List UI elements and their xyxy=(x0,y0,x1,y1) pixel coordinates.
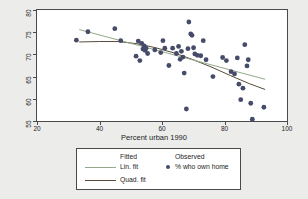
x-tick-mark xyxy=(287,122,288,125)
x-tick-label: 60 xyxy=(152,125,172,132)
scatter-plot-canvas xyxy=(37,10,287,121)
x-axis-title: Percent urban 1990 xyxy=(0,133,308,142)
y-tick-mark xyxy=(33,77,36,78)
x-tick-mark xyxy=(100,122,101,125)
y-tick-label: 60 xyxy=(25,98,32,114)
legend-label-observed: % who own home xyxy=(175,163,229,170)
x-tick-label: 40 xyxy=(90,125,110,132)
legend-label-quad-fit: Quad. fit xyxy=(120,176,146,183)
y-tick-mark xyxy=(33,32,36,33)
legend-swatch-observed xyxy=(166,165,170,169)
legend-header-fitted: Fitted xyxy=(120,153,137,160)
plot-panel xyxy=(36,9,288,122)
y-tick-label: 70 xyxy=(25,54,32,70)
legend-label-lin-fit: Lin. fit xyxy=(120,163,138,170)
x-tick-mark xyxy=(162,122,163,125)
y-tick-label: 80 xyxy=(25,10,32,26)
y-tick-label: 65 xyxy=(25,76,32,92)
y-tick-mark xyxy=(33,54,36,55)
legend-swatch-lin-fit xyxy=(85,167,116,168)
x-tick-label: 100 xyxy=(277,125,297,132)
legend-header-observed: Observed xyxy=(175,153,204,160)
observed-points xyxy=(74,20,266,121)
x-tick-label: 80 xyxy=(215,125,235,132)
y-tick-mark xyxy=(33,99,36,100)
lin-fit-line xyxy=(79,30,265,80)
chart-figure: 556065707580 20406080100 Percent urban 1… xyxy=(0,0,308,199)
y-tick-label: 75 xyxy=(25,32,32,48)
x-tick-mark xyxy=(37,122,38,125)
y-tick-mark xyxy=(33,121,36,122)
x-tick-label: 20 xyxy=(27,125,47,132)
x-tick-mark xyxy=(225,122,226,125)
y-tick-mark xyxy=(33,10,36,11)
legend-swatch-quad-fit xyxy=(85,180,116,181)
chart-legend: Fitted Observed Lin. fit % who own home … xyxy=(76,148,241,190)
